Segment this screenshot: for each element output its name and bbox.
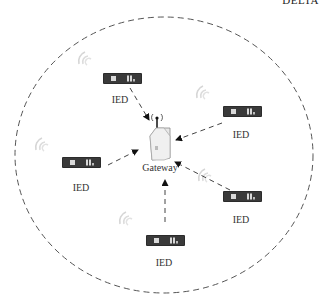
link-ied2-gateway bbox=[176, 123, 222, 140]
antenna-icon bbox=[152, 114, 163, 128]
ied-node-2: IED bbox=[223, 106, 262, 140]
wifi-signal-icon bbox=[199, 169, 211, 182]
ied-device-icon bbox=[146, 235, 185, 246]
wifi-signal-icon bbox=[120, 212, 132, 225]
link-ied1-gateway bbox=[130, 88, 149, 120]
ied-label: IED bbox=[233, 129, 250, 140]
ied-node-4: IED bbox=[223, 191, 262, 225]
ied-node-1: IED bbox=[103, 73, 142, 105]
ied-label: IED bbox=[156, 257, 173, 268]
wireless-gateway-icon bbox=[150, 128, 170, 160]
ied-device-icon bbox=[223, 191, 262, 202]
ied-device-icon bbox=[223, 106, 262, 117]
ied-device-icon bbox=[103, 73, 142, 84]
ied-node-5: IED bbox=[146, 235, 185, 268]
network-diagram: Gateway IED IED IED IED IED bbox=[0, 0, 319, 296]
gateway-label: Gateway bbox=[142, 162, 178, 173]
link-ied4-gateway bbox=[175, 162, 230, 190]
ied-label: IED bbox=[233, 214, 250, 225]
ied-label: IED bbox=[73, 182, 90, 193]
wifi-signal-icon bbox=[197, 86, 209, 99]
ied-node-3: IED bbox=[62, 157, 101, 193]
ied-label: IED bbox=[112, 94, 129, 105]
gateway-node: Gateway bbox=[142, 114, 178, 173]
ied-device-icon bbox=[62, 157, 101, 168]
wifi-signal-icon bbox=[36, 138, 48, 151]
wifi-signal-icon bbox=[79, 52, 91, 65]
link-ied3-gateway bbox=[108, 150, 138, 165]
